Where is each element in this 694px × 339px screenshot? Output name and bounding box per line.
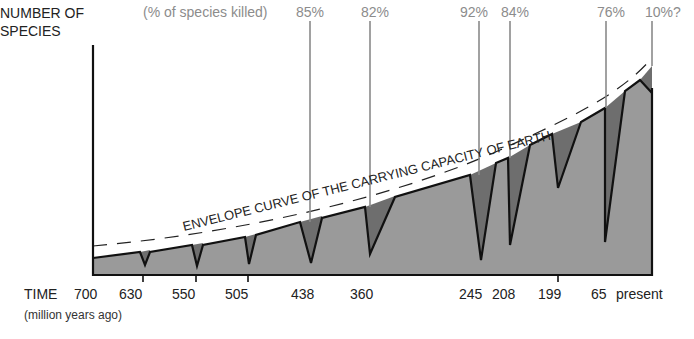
x-tick-label: 199 bbox=[538, 286, 561, 302]
x-tick-label: 700 bbox=[74, 286, 97, 302]
y-axis-label-line2: SPECIES bbox=[0, 22, 84, 40]
y-axis-label: NUMBER OF SPECIES bbox=[0, 4, 84, 40]
x-tick-label: 360 bbox=[350, 286, 373, 302]
percent-label-360: 82% bbox=[361, 4, 389, 20]
percent-label-present: 10%? bbox=[645, 4, 681, 20]
extinction-header: (% of species killed) bbox=[143, 4, 268, 20]
x-tick-label: 208 bbox=[492, 286, 515, 302]
x-tick-label: 550 bbox=[172, 286, 195, 302]
percent-label-65: 76% bbox=[597, 4, 625, 20]
x-axis-subtitle: (million years ago) bbox=[24, 308, 122, 322]
extinction-chart: ENVELOPE CURVE OF THE CARRYING CAPACITY … bbox=[0, 0, 694, 339]
percent-label-208: 84% bbox=[501, 4, 529, 20]
percent-label-245: 92% bbox=[460, 4, 488, 20]
percent-label-438: 85% bbox=[296, 4, 324, 20]
x-tick-label: 630 bbox=[119, 286, 142, 302]
x-tick-label: 65 bbox=[591, 286, 607, 302]
y-axis-label-line1: NUMBER OF bbox=[0, 4, 84, 22]
x-tick-label: 438 bbox=[291, 286, 314, 302]
x-axis-title: TIME bbox=[24, 286, 57, 302]
x-tick-label: present bbox=[616, 286, 663, 302]
x-tick-label: 505 bbox=[225, 286, 248, 302]
x-tick-label: 245 bbox=[459, 286, 482, 302]
